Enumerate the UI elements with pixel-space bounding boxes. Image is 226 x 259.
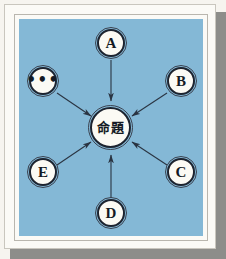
center-node-label: 命題	[97, 121, 124, 134]
figure-card: A B C D E	[4, 4, 216, 249]
edge-e-to-center	[57, 142, 91, 165]
node-a-label: A	[106, 36, 117, 51]
node-e[interactable]: E	[29, 158, 57, 186]
ellipsis-icon: •••	[26, 73, 59, 88]
diagram-canvas: A B C D E	[19, 19, 203, 236]
node-c[interactable]: C	[167, 158, 195, 186]
edge-b-to-center	[132, 93, 167, 116]
edge-c-to-center	[132, 142, 167, 165]
node-c-label: C	[176, 165, 187, 180]
card-shadow-bottom	[10, 249, 226, 259]
node-b[interactable]: B	[167, 67, 195, 95]
center-node-proposition[interactable]: 命題	[90, 107, 131, 148]
edge-dots-to-center	[57, 93, 91, 116]
node-b-label: B	[176, 74, 186, 89]
node-ellipsis[interactable]: •••	[29, 67, 57, 95]
card-shadow-right	[216, 12, 226, 259]
node-a[interactable]: A	[97, 29, 125, 57]
node-e-label: E	[38, 165, 48, 180]
node-d-label: D	[106, 206, 117, 221]
figure-root: A B C D E	[0, 0, 226, 259]
node-d[interactable]: D	[97, 199, 125, 227]
